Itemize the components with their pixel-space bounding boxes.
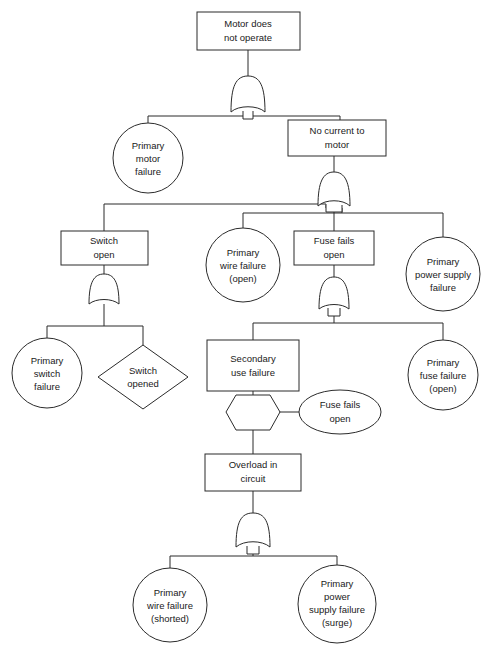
node-primary-fuse-failure-open[interactable]: Primary fuse failure (open) <box>408 340 478 410</box>
node-primary-wire-failure-shorted-line-1: wire failure <box>146 600 193 611</box>
node-switch-open-line-1: open <box>93 249 114 260</box>
node-primary-power-supply-failure-line-0: Primary <box>427 256 460 267</box>
gate-no-current-or[interactable] <box>318 172 350 212</box>
node-switch-opened-line-0: Switch <box>129 365 157 376</box>
node-primary-wire-failure-shorted-line-0: Primary <box>154 587 187 598</box>
node-switch-open-line-0: Switch <box>90 235 118 246</box>
node-no-current-to-motor-line-0: No current to <box>310 125 365 136</box>
node-fuse-fails-open[interactable]: Fuse fails open <box>294 231 374 265</box>
node-secondary-use-failure-line-1: use failure <box>231 367 275 378</box>
node-primary-fuse-failure-open-line-2: (open) <box>429 383 456 394</box>
node-primary-motor-failure-line-1: motor <box>136 153 160 164</box>
node-primary-switch-failure-line-2: failure <box>34 381 60 392</box>
node-primary-power-supply-failure-surge-line-2: supply failure <box>309 604 365 615</box>
node-primary-wire-failure-open[interactable]: Primary wire failure (open) <box>206 228 280 302</box>
node-top-event-line-0: Motor does <box>224 18 272 29</box>
node-fuse-fails-open-condition-line-0: Fuse fails <box>320 399 361 410</box>
node-primary-fuse-failure-open-line-0: Primary <box>427 357 460 368</box>
node-primary-wire-failure-shorted[interactable]: Primary wire failure (shorted) <box>133 568 207 642</box>
node-primary-power-supply-failure-line-1: power supply <box>415 269 471 280</box>
node-primary-wire-failure-open-line-2: (open) <box>229 273 256 284</box>
gate-overload-or[interactable] <box>236 513 270 554</box>
node-top-event[interactable]: Motor does not operate <box>197 12 300 50</box>
node-fuse-fails-open-condition[interactable]: Fuse fails open <box>299 390 381 434</box>
node-switch-open[interactable]: Switch open <box>61 231 148 265</box>
node-primary-power-supply-failure-surge-line-0: Primary <box>321 578 354 589</box>
node-fuse-fails-open-condition-line-1: open <box>329 413 350 424</box>
node-overload-in-circuit-line-1: circuit <box>241 473 266 484</box>
node-primary-switch-failure-line-0: Primary <box>31 355 64 366</box>
node-primary-motor-failure[interactable]: Primary motor failure <box>113 123 183 193</box>
node-primary-wire-failure-shorted-line-2: (shorted) <box>151 613 189 624</box>
node-fuse-fails-open-line-1: open <box>323 249 344 260</box>
node-primary-power-supply-failure[interactable]: Primary power supply failure <box>406 237 480 311</box>
node-primary-power-supply-failure-line-2: failure <box>430 282 456 293</box>
node-primary-power-supply-failure-surge-line-1: power <box>324 591 350 602</box>
node-primary-switch-failure-line-1: switch <box>34 368 60 379</box>
gate-switch-open-or[interactable] <box>89 274 119 304</box>
node-primary-motor-failure-line-2: failure <box>135 166 161 177</box>
fault-tree-svg: Motor does not operate Primary motor fai… <box>0 0 491 652</box>
gate-top-or[interactable] <box>231 76 265 119</box>
node-fuse-fails-open-line-0: Fuse fails <box>314 235 355 246</box>
node-top-event-line-1: not operate <box>224 32 272 43</box>
node-primary-power-supply-failure-surge[interactable]: Primary power supply failure (surge) <box>298 565 376 643</box>
node-primary-wire-failure-open-line-1: wire failure <box>219 260 266 271</box>
node-primary-power-supply-failure-surge-line-3: (surge) <box>322 617 352 628</box>
node-primary-wire-failure-open-line-0: Primary <box>227 247 260 258</box>
node-switch-opened-line-1: opened <box>127 378 159 389</box>
node-switch-opened[interactable]: Switch opened <box>98 345 188 409</box>
fault-tree-diagram: Motor does not operate Primary motor fai… <box>0 0 491 652</box>
node-primary-switch-failure[interactable]: Primary switch failure <box>12 338 82 408</box>
node-overload-in-circuit-line-0: Overload in <box>229 459 278 470</box>
node-secondary-use-failure[interactable]: Secondary use failure <box>207 340 299 391</box>
gate-fuse-fails-or[interactable] <box>319 277 349 316</box>
node-secondary-use-failure-line-0: Secondary <box>230 353 276 364</box>
node-primary-fuse-failure-open-line-1: fuse failure <box>420 370 466 381</box>
gate-inhibit-hexagon[interactable] <box>226 395 280 430</box>
node-overload-in-circuit[interactable]: Overload in circuit <box>205 454 301 491</box>
node-no-current-to-motor-line-1: motor <box>325 139 349 150</box>
node-primary-motor-failure-line-0: Primary <box>132 140 165 151</box>
node-no-current-to-motor[interactable]: No current to motor <box>288 120 386 156</box>
